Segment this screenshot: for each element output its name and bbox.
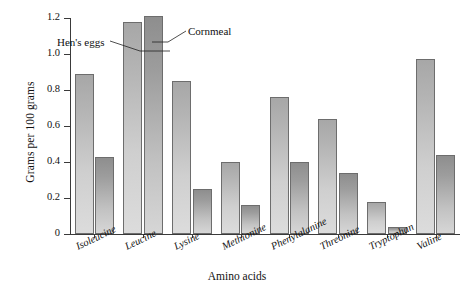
- y-axis-tick-label: 1.0: [26, 48, 60, 58]
- annotation-hens-eggs: Hen's eggs: [57, 36, 105, 48]
- bar-leucine-hens-eggs: [123, 22, 142, 234]
- bar-tryptophan-hens-eggs: [367, 202, 386, 234]
- y-axis-tick-label: 1.2: [26, 12, 60, 22]
- y-axis-tick-label: 0.6: [26, 120, 60, 130]
- y-axis-tick-label: 0: [26, 228, 60, 238]
- y-axis-tick-label: 0.8: [26, 84, 60, 94]
- plot-area: [70, 18, 460, 234]
- bar-valine-cornmeal: [436, 155, 455, 234]
- bar-leucine-cornmeal: [144, 16, 163, 234]
- bar-chart-figure: Grams per 100 grams 00.20.40.60.81.01.2 …: [0, 0, 474, 288]
- y-axis-title: Grams per 100 grams: [24, 32, 36, 232]
- bar-isoleucine-hens-eggs: [75, 74, 94, 234]
- y-axis-tick-label: 0.2: [26, 192, 60, 202]
- bar-phenylalanine-hens-eggs: [270, 97, 289, 234]
- bar-lysine-cornmeal: [193, 189, 212, 234]
- annotation-cornmeal: Cornmeal: [188, 25, 231, 37]
- x-axis-title: Amino acids: [0, 270, 474, 282]
- y-axis-tick-label: 0.4: [26, 156, 60, 166]
- bar-methionine-hens-eggs: [221, 162, 240, 234]
- bar-valine-hens-eggs: [416, 59, 435, 234]
- bar-lysine-hens-eggs: [172, 81, 191, 234]
- y-axis-tick: [64, 234, 70, 235]
